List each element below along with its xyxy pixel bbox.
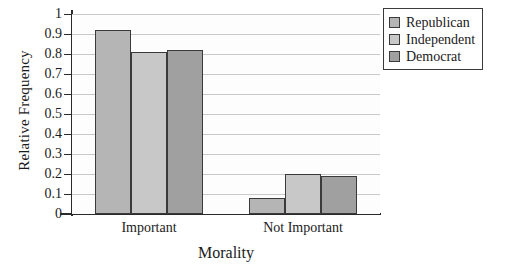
y-axis-tick-label: 0.5: [6, 107, 62, 121]
y-axis-tick-mark: [64, 34, 72, 35]
y-axis-tick-label: 0.6: [6, 87, 62, 101]
y-axis-tick-label: 0.2: [6, 167, 62, 181]
legend-item[interactable]: Independent: [389, 31, 475, 47]
y-axis-tick-mark: [64, 54, 72, 55]
legend-swatch-icon: [389, 34, 400, 45]
y-axis-tick-mark: [64, 174, 72, 175]
legend-item-label: Independent: [406, 32, 475, 47]
bar: [95, 30, 131, 214]
y-axis-tick-label: 1: [6, 7, 62, 21]
y-axis-tick-mark: [64, 214, 72, 215]
legend-item[interactable]: Republican: [389, 14, 475, 30]
bar-chart-figure: Relative Frequency 00.10.20.30.40.50.60.…: [0, 0, 505, 267]
y-axis-tick-label: 0.3: [6, 147, 62, 161]
y-axis-tick-label: 0.9: [6, 27, 62, 41]
y-axis-tick-mark: [64, 74, 72, 75]
legend-item-label: Democrat: [406, 49, 461, 64]
bar: [167, 50, 203, 214]
legend-swatch-icon: [389, 17, 400, 28]
x-axis-tick-label: Important: [72, 220, 226, 236]
plot-inner: [72, 14, 380, 214]
y-axis-tick-label: 0.4: [6, 127, 62, 141]
legend-item[interactable]: Democrat: [389, 48, 475, 64]
y-axis-tick-mark: [64, 94, 72, 95]
plot-area: [72, 14, 380, 214]
bar: [321, 176, 357, 214]
y-axis-tick-label: 0: [6, 207, 62, 221]
y-axis-tick-labels: 00.10.20.30.40.50.60.70.80.91: [0, 0, 62, 267]
y-axis-tick-mark: [64, 14, 72, 15]
bar: [131, 52, 167, 214]
x-axis-title: Morality: [72, 244, 380, 262]
y-axis-tick-label: 0.8: [6, 47, 62, 61]
y-axis-tick-label: 0.7: [6, 67, 62, 81]
gridline: [72, 14, 380, 15]
y-axis-tick-label: 0.1: [6, 187, 62, 201]
legend-item-label: Republican: [406, 15, 470, 30]
x-axis-tick-label: Not Important: [226, 220, 380, 236]
y-axis-tick-mark: [64, 134, 72, 135]
bar: [249, 198, 285, 214]
chart-legend: RepublicanIndependentDemocrat: [383, 8, 483, 70]
y-axis-tick-mark: [64, 114, 72, 115]
bar: [285, 174, 321, 214]
y-axis-tick-mark: [64, 154, 72, 155]
legend-swatch-icon: [389, 51, 400, 62]
y-axis-tick-mark: [64, 194, 72, 195]
